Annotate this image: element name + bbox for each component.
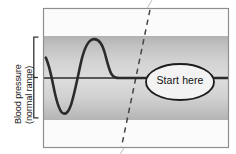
blood-pressure-figure: Blood pressure (normal range) Start here [0, 0, 236, 154]
start-here-label: Start here [148, 74, 212, 86]
